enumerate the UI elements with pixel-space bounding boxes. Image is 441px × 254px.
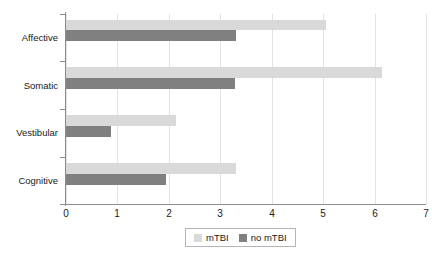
y-axis-label-vestibular: Vestibular <box>0 127 58 138</box>
y-axis-tick-1 <box>60 14 65 15</box>
x-axis-tick-label-2: 2 <box>159 208 179 219</box>
bar-cognitive-mtbi <box>66 163 236 174</box>
bar-chart: Affective Somatic Vestibular Cognitive 0… <box>0 0 441 254</box>
y-axis-tick-2 <box>60 61 65 62</box>
gridline-4 <box>272 14 273 204</box>
bar-somatic-no-mtbi <box>66 78 235 89</box>
gridline-7 <box>426 14 427 204</box>
y-axis-label-cognitive: Cognitive <box>0 175 58 186</box>
y-axis-label-somatic: Somatic <box>0 80 58 91</box>
gridline-2 <box>169 14 170 204</box>
x-axis-tick-label-6: 6 <box>365 208 385 219</box>
chart-legend: mTBI no mTBI <box>185 228 296 247</box>
y-axis-tick-3 <box>60 109 65 110</box>
x-axis-tick-label-7: 7 <box>416 208 436 219</box>
x-axis-line <box>65 204 426 205</box>
legend-swatch-no-mtbi-icon <box>239 234 247 242</box>
plot-area <box>66 14 426 204</box>
legend-label-mtbi: mTBI <box>206 232 229 243</box>
bar-vestibular-mtbi <box>66 115 176 126</box>
y-axis-line <box>65 12 66 206</box>
x-axis-tick-label-5: 5 <box>313 208 333 219</box>
y-axis-tick-5 <box>60 204 65 205</box>
y-axis-tick-4 <box>60 157 65 158</box>
x-axis-tick-label-3: 3 <box>210 208 230 219</box>
bar-somatic-mtbi <box>66 67 382 78</box>
bar-affective-mtbi <box>66 20 326 30</box>
legend-item-mtbi: mTBI <box>194 232 229 243</box>
legend-item-no-mtbi: no mTBI <box>239 232 287 243</box>
x-axis-tick-label-4: 4 <box>262 208 282 219</box>
bar-cognitive-no-mtbi <box>66 174 166 185</box>
gridline-3 <box>220 14 221 204</box>
gridline-5 <box>323 14 324 204</box>
y-axis-label-affective: Affective <box>0 32 58 43</box>
x-axis-tick-label-0: 0 <box>56 208 76 219</box>
x-axis-tick-label-1: 1 <box>107 208 127 219</box>
bar-vestibular-no-mtbi <box>66 126 111 137</box>
gridline-6 <box>375 14 376 204</box>
bar-affective-no-mtbi <box>66 30 236 41</box>
legend-swatch-mtbi-icon <box>194 234 202 242</box>
legend-label-no-mtbi: no mTBI <box>251 232 287 243</box>
